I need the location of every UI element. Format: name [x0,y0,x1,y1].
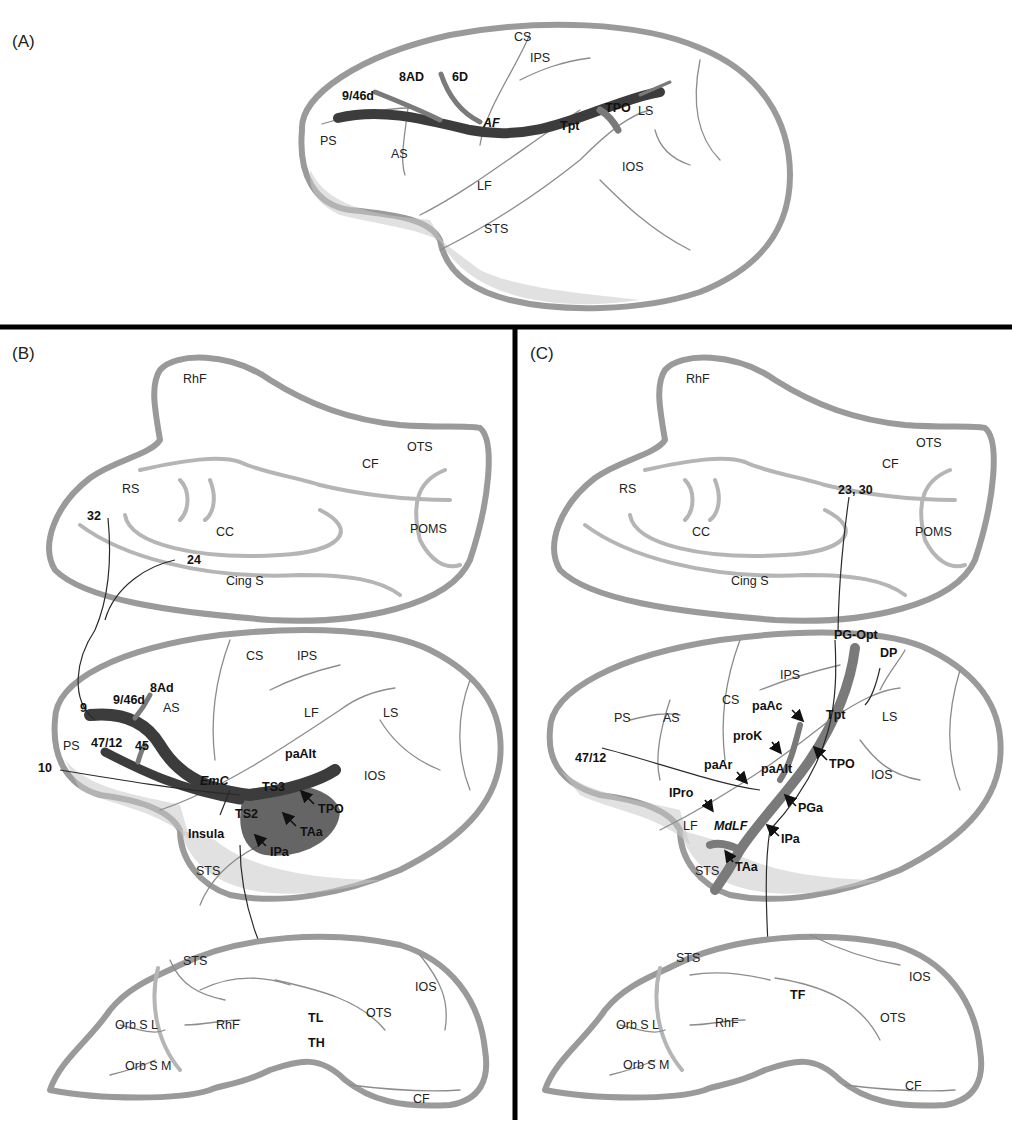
label-l-cs-c: CS [722,693,739,707]
lateral-brain-a [301,25,790,308]
label-l-ipa-c: IPa [781,832,801,846]
label-l-ips-c: IPS [780,668,800,682]
label-m-rhf-c: RhF [686,372,710,386]
label-l-ipro: IPro [669,786,694,800]
label-l-mdlf: MdLF [714,819,748,833]
panel-c: (C) RhF OTS CF RS 23, 30 CC POMS Cing S [530,344,1001,1106]
label-l-emc: EmC [200,774,229,788]
label-m-cc-c: CC [692,525,710,539]
label-m-ots-c: OTS [916,436,942,450]
label-m-cf: CF [362,457,379,471]
label-m-cc: CC [216,525,234,539]
label-cs: CS [514,30,531,44]
label-v-ots-c: OTS [880,1011,906,1025]
label-ps: PS [320,134,337,148]
label-l-45: 45 [135,739,149,753]
label-m-poms-c: POMS [915,525,952,539]
label-v-cf-c: CF [905,1079,922,1093]
label-l-sts: STS [196,864,220,878]
label-m-cing-s: Cing S [226,574,264,588]
medial-brain-b [49,358,489,630]
panel-label-b: (B) [12,344,35,363]
label-l-ips: IPS [297,649,317,663]
label-l-taa: TAa [300,825,324,839]
label-v-orb-s-m: Orb S M [125,1059,172,1073]
label-l-sts-c: STS [695,864,719,878]
label-ls: LS [638,104,653,118]
label-af: AF [482,116,500,130]
label-l-tpo-c: TPO [829,757,855,771]
label-v-tf: TF [790,988,806,1002]
label-m-rs-c: RS [619,482,636,496]
label-v-cf: CF [413,1092,430,1106]
label-m-23-30: 23, 30 [838,483,873,497]
label-l-lf: LF [304,706,319,720]
label-l-dp: DP [880,646,897,660]
label-l-9: 9 [80,701,87,715]
label-9-46d: 9/46d [342,89,374,103]
label-v-rhf-c: RhF [715,1016,739,1030]
label-tpo: TPO [605,101,631,115]
label-l-pg-opt: PG-Opt [834,628,879,642]
medial-brain-c [554,358,994,640]
label-v-sts: STS [183,954,207,968]
panel-a: (A) CS IPS 8AD 6D 9/46d PS AS AF [12,25,790,308]
label-l-10: 10 [38,761,52,775]
label-8ad: 8AD [399,70,424,84]
label-l-9-46d: 9/46d [113,693,145,707]
label-m-cing-s-c: Cing S [731,574,769,588]
label-m-rs: RS [122,482,139,496]
label-6d: 6D [452,70,468,84]
label-m-rhf: RhF [183,372,207,386]
label-v-ios-c: IOS [909,970,931,984]
label-l-pga: PGa [798,801,824,815]
label-v-rhf: RhF [216,1018,240,1032]
label-l-47-12: 47/12 [91,736,122,750]
label-l-paalt-c: paAlt [761,762,793,776]
label-l-ios: IOS [364,769,386,783]
label-l-ls: LS [383,706,398,720]
label-v-tl: TL [308,1011,324,1025]
label-ios: IOS [622,160,644,174]
figure-canvas: (A) CS IPS 8AD 6D 9/46d PS AS AF [0,0,1012,1136]
label-l-insula: Insula [188,827,225,841]
label-l-ios-c: IOS [871,768,893,782]
label-m-ots: OTS [407,440,433,454]
label-l-paac: paAc [752,699,783,713]
label-v-orb-s-l-c: Orb S L [616,1018,659,1032]
label-l-cs: CS [246,649,263,663]
label-l-ts3: TS3 [262,780,285,794]
label-l-ts2: TS2 [235,807,258,821]
panel-b: (B) RhF OTS CF RS 32 CC POMS 24 Cing S [12,344,501,1106]
panel-label-c: (C) [530,344,554,363]
label-l-tpo: TPO [318,802,344,816]
label-m-24: 24 [187,553,201,567]
label-m-cf-c: CF [882,457,899,471]
panel-label-a: (A) [12,32,35,51]
label-v-th: TH [308,1036,325,1050]
label-tpt: Tpt [560,119,580,133]
label-lf: LF [477,179,492,193]
label-l-as-c: AS [663,711,680,725]
label-v-sts-c: STS [676,951,700,965]
label-l-as: AS [163,701,180,715]
label-l-tpt: Tpt [826,708,846,722]
label-v-orb-s-l: Orb S L [115,1018,158,1032]
lateral-brain-c [550,633,1001,980]
label-l-ipa: IPa [270,845,290,859]
label-m-32: 32 [87,509,101,523]
label-ips: IPS [530,51,550,65]
label-l-paar: paAr [704,758,733,772]
label-v-orb-s-m-c: Orb S M [623,1058,670,1072]
label-l-47-12-c: 47/12 [575,751,606,765]
label-l-taa-c: TAa [735,860,759,874]
label-l-paalt: paAlt [285,747,317,761]
label-sts: STS [484,222,508,236]
label-l-lf-c: LF [683,819,698,833]
label-l-ps: PS [63,739,80,753]
label-v-ios: IOS [415,980,437,994]
label-l-prok: proK [733,729,762,743]
label-l-8ad: 8Ad [150,681,174,695]
label-v-ots: OTS [366,1006,392,1020]
label-m-poms: POMS [410,522,447,536]
